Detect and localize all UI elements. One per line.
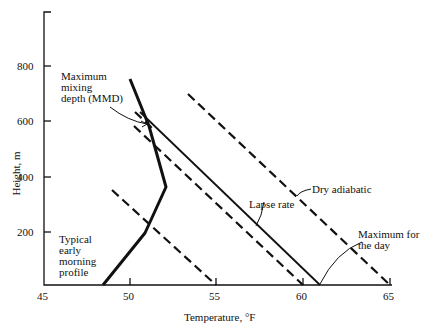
x-tick-label-50: 50 (123, 290, 134, 302)
x-tick-label-55: 55 (209, 290, 220, 302)
chart-canvas (0, 0, 424, 329)
x-axis-title: Temperature, °F (184, 312, 255, 323)
annotation-mmd: Maximum mixing depth (MMD) (61, 71, 123, 104)
morning-profile-line (103, 79, 166, 285)
annotation-morning-profile: Typical early morning profile (59, 234, 96, 278)
annotation-lapse-rate: Lapse rate (249, 199, 295, 210)
y-tick-label-200: 200 (17, 226, 34, 238)
y-tick-label-800: 800 (17, 60, 34, 72)
x-tick-label-60: 60 (296, 290, 307, 302)
y-tick-label-600: 600 (17, 115, 34, 127)
dry-adiabat-1 (112, 190, 216, 285)
annotation-dry-adiabatic: Dry adiabatic (312, 184, 372, 195)
y-axis-title: Height, m (11, 144, 22, 204)
annotation-max-for-day: Maximum for the day (358, 229, 419, 251)
dry-adiabatic-leader (297, 189, 311, 196)
leader-lines (110, 107, 362, 284)
x-tick-label-65: 65 (383, 290, 394, 302)
x-tick-label-45: 45 (37, 290, 48, 302)
max-day-leader (320, 242, 362, 284)
